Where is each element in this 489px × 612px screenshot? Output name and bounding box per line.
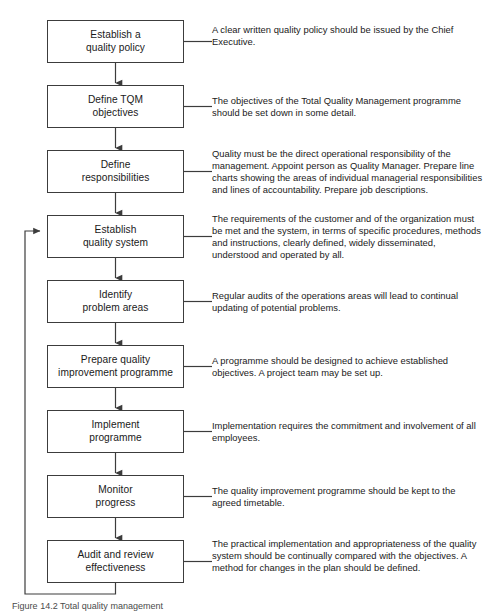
flow-node-label: Monitor progress: [91, 484, 139, 509]
flow-node-establish-quality-policy[interactable]: Establish a quality policy: [47, 20, 184, 63]
flow-node-implement-programme[interactable]: Implement programme: [47, 410, 184, 453]
note-establish-quality-policy: A clear written quality policy should be…: [212, 24, 480, 48]
flow-node-label: Implement programme: [85, 419, 146, 444]
flow-node-identify-problem-areas[interactable]: Identify problem areas: [47, 280, 184, 323]
note-monitor-progress: The quality improvement programme should…: [212, 485, 484, 509]
flow-node-audit-and-review-effectiveness[interactable]: Audit and review effectiveness: [47, 540, 184, 583]
note-prepare-quality-improvement-programme: A programme should be designed to achiev…: [212, 355, 484, 379]
flow-node-define-responsibilities[interactable]: Define responsibilities: [47, 150, 184, 193]
note-audit-and-review-effectiveness: The practical implementation and appropr…: [212, 538, 484, 574]
flow-node-define-tqm-objectives[interactable]: Define TQM objectives: [47, 85, 184, 128]
note-establish-quality-system: The requirements of the customer and of …: [212, 213, 484, 261]
note-define-responsibilities: Quality must be the direct operational r…: [212, 148, 484, 196]
flow-node-monitor-progress[interactable]: Monitor progress: [47, 475, 184, 518]
note-implement-programme: Implementation requires the commitment a…: [212, 420, 480, 444]
flow-node-label: Audit and review effectiveness: [73, 549, 157, 574]
flow-node-label: Define TQM objectives: [84, 94, 147, 119]
flow-node-label: Prepare quality improvement programme: [54, 354, 177, 379]
note-identify-problem-areas: Regular audits of the operations areas w…: [212, 290, 480, 314]
flow-node-label: Establish a quality policy: [82, 29, 149, 54]
flow-node-establish-quality-system[interactable]: Establish quality system: [47, 215, 184, 258]
flow-node-label: Identify problem areas: [79, 289, 153, 314]
flow-node-label: Establish quality system: [79, 224, 152, 249]
flow-node-prepare-quality-improvement-programme[interactable]: Prepare quality improvement programme: [47, 345, 184, 388]
note-define-tqm-objectives: The objectives of the Total Quality Mana…: [212, 95, 480, 119]
flow-node-label: Define responsibilities: [78, 159, 154, 184]
figure-caption: Figure 14.2 Total quality management: [12, 601, 163, 612]
